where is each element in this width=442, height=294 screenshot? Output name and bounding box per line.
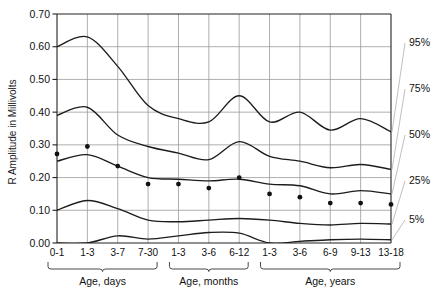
x-axis-tick-label: 1-3 — [262, 247, 277, 258]
horizontal-gridlines — [57, 47, 391, 211]
y-axis-tick-marks — [53, 14, 58, 243]
percentile-curves — [57, 36, 391, 243]
percentile-label-25pct: 25% — [409, 174, 430, 186]
percentile-label-95pct: 95% — [409, 36, 430, 48]
data-point-marker — [358, 201, 363, 206]
y-axis-tick-label: 0.50 — [30, 73, 51, 85]
data-point-marker — [146, 182, 151, 187]
data-point-marker — [298, 195, 303, 200]
x-axis-tick-label: 3-7 — [111, 247, 126, 258]
percentile-leader-line — [392, 135, 405, 194]
curve-5pct — [57, 232, 391, 243]
y-axis-tick-label: 0.10 — [30, 204, 51, 216]
group-brace — [169, 262, 248, 272]
x-axis-tick-labels: 0-11-33-77-301-33-66-121-33-66-99-1313-1… — [50, 247, 404, 258]
x-axis-tick-label: 1-3 — [171, 247, 186, 258]
curve-95pct — [57, 36, 391, 131]
group-brace — [261, 262, 400, 272]
plot-frame — [57, 14, 391, 243]
y-axis-title: R Amplitude in Millivolts — [7, 79, 18, 184]
percentile-legend-labels: 95%75%50%25%5% — [409, 36, 430, 225]
percentile-leader-lines — [392, 43, 405, 240]
x-axis-tick-label: 3-6 — [293, 247, 308, 258]
x-axis-tick-label: 1-3 — [80, 247, 95, 258]
percentile-label-75pct: 75% — [409, 82, 430, 94]
x-axis-group-braces — [48, 262, 400, 272]
y-axis-tick-label: 0.30 — [30, 138, 51, 150]
y-axis-tick-labels: 0.000.100.200.300.400.500.600.70 — [30, 8, 51, 249]
data-point-marker — [85, 144, 90, 149]
curve-25pct — [57, 200, 391, 225]
median-marker-dots — [55, 144, 394, 207]
x-axis-group-labels: Age, daysAge, monthsAge, years — [79, 275, 355, 287]
x-axis-tick-label: 0-1 — [50, 247, 65, 258]
group-brace — [48, 262, 157, 272]
vertical-gridlines — [87, 14, 360, 243]
x-axis-tick-label: 6-12 — [229, 247, 249, 258]
curve-75pct — [57, 107, 391, 170]
y-axis-tick-label: 0.70 — [30, 8, 51, 20]
y-axis-label-text: R Amplitude in Millivolts — [7, 79, 18, 184]
data-point-marker — [267, 192, 272, 197]
curve-50pct — [57, 155, 391, 194]
y-axis-tick-label: 0.60 — [30, 40, 51, 52]
group-label: Age, months — [179, 275, 238, 287]
r-amplitude-percentile-chart: R Amplitude in Millivolts 0.000.100.200.… — [0, 0, 442, 294]
x-axis-tick-label: 3-6 — [202, 247, 217, 258]
x-axis-tick-label: 7-30 — [138, 247, 158, 258]
data-point-marker — [328, 201, 333, 206]
percentile-label-5pct: 5% — [409, 213, 424, 225]
y-axis-tick-label: 0.00 — [30, 237, 51, 249]
percentile-label-50pct: 50% — [409, 128, 430, 140]
data-point-marker — [55, 152, 60, 157]
x-axis-tick-label: 13-18 — [378, 247, 404, 258]
percentile-leader-line — [392, 89, 405, 169]
data-point-marker — [115, 164, 120, 169]
x-axis-tick-label: 6-9 — [323, 247, 338, 258]
percentile-leader-line — [392, 220, 405, 240]
x-axis-tick-label: 9-13 — [351, 247, 371, 258]
group-label: Age, days — [79, 275, 126, 287]
data-point-marker — [176, 182, 181, 187]
group-label: Age, years — [305, 275, 355, 287]
percentile-leader-line — [392, 43, 405, 132]
percentile-leader-line — [392, 181, 405, 224]
data-point-marker — [389, 202, 394, 207]
data-point-marker — [237, 175, 242, 180]
y-axis-tick-label: 0.40 — [30, 106, 51, 118]
data-point-marker — [206, 186, 211, 191]
y-axis-tick-label: 0.20 — [30, 171, 51, 183]
chart-container: R Amplitude in Millivolts 0.000.100.200.… — [0, 0, 442, 294]
